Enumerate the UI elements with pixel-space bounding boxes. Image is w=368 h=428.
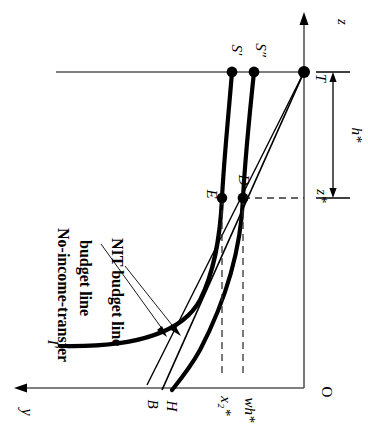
- origin-label: O: [319, 387, 335, 398]
- marker-S-prime: [227, 67, 238, 78]
- marker-D: [238, 193, 249, 204]
- figure-container: z y O S′ S″ T E D I′ B H x₂* wh* z* h* N…: [0, 0, 368, 428]
- axis-z-label: z: [335, 18, 351, 25]
- axis-y: [14, 384, 304, 393]
- label-S-prime: S′: [229, 45, 245, 57]
- label-B: B: [145, 399, 161, 408]
- label-T: T: [313, 74, 329, 84]
- label-S-double-prime: S″: [253, 43, 269, 58]
- indifference-curve-through-D: [172, 72, 254, 390]
- label-z-star: z*: [314, 188, 330, 203]
- h-star-measure: [316, 72, 350, 198]
- leader-nit: [125, 266, 181, 336]
- marker-T: [298, 66, 310, 78]
- label-h-star: h*: [349, 128, 365, 144]
- marker-S-double-prime: [249, 67, 260, 78]
- label-wh-star: wh*: [242, 397, 258, 423]
- annotation-no-income-transfer-line1: No-income-transfer: [55, 228, 72, 362]
- nit-budget-diagram: z y O S′ S″ T E D I′ B H x₂* wh* z* h* N…: [0, 0, 368, 428]
- label-H: H: [164, 400, 180, 413]
- nit-budget-line: [147, 72, 304, 385]
- label-x2-star: x₂*: [218, 395, 234, 416]
- axis-y-label: y: [18, 406, 36, 416]
- annotation-no-income-transfer-line2: budget line: [76, 240, 94, 316]
- annotation-nit-line1: NIT budget line: [108, 238, 126, 346]
- no-income-transfer-budget-line: [162, 72, 304, 390]
- label-D: D: [236, 174, 252, 186]
- label-E: E: [204, 188, 220, 198]
